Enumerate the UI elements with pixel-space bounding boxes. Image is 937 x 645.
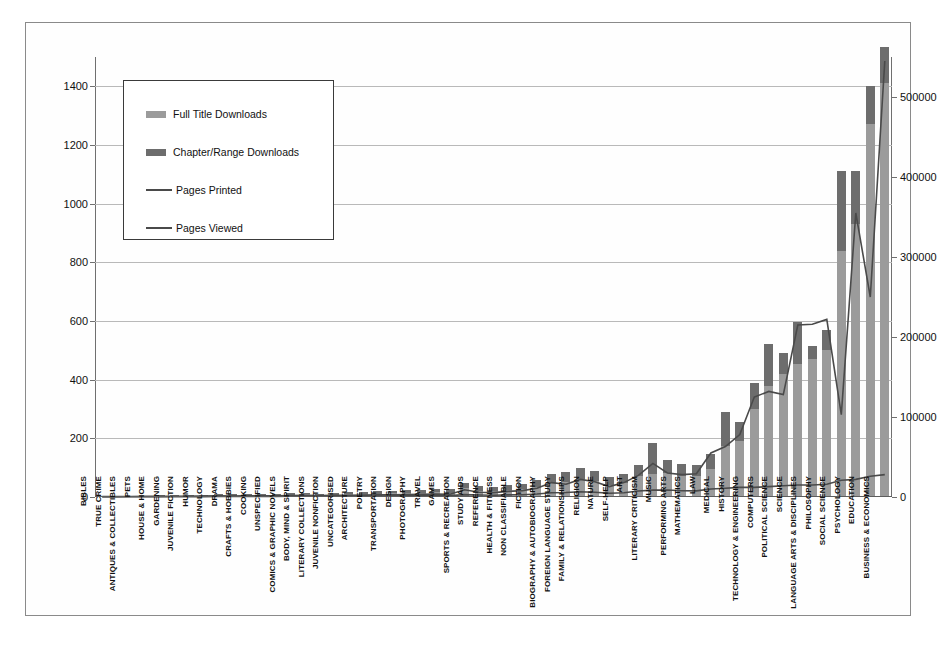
right-axis-tick-mark bbox=[892, 97, 897, 98]
legend-item: Chapter/Range Downloads bbox=[146, 133, 333, 171]
category-label: NON CLASSIFIABLE bbox=[499, 476, 508, 556]
category-label: COMICS & GRAPHIC NOVELS bbox=[268, 476, 277, 593]
category-label: HEALTH & FITNESS bbox=[485, 476, 494, 553]
category-label: FICTION bbox=[514, 476, 523, 509]
category-label: BODY, MIND & SPIRIT bbox=[282, 476, 291, 561]
right-axis-tick-mark bbox=[892, 177, 897, 178]
left-axis-tick-label: 600 bbox=[70, 315, 88, 327]
left-axis-tick-label: 1000 bbox=[64, 198, 88, 210]
legend-swatch-chapter-range-downloads bbox=[146, 149, 166, 156]
category-label: TRANSPORTATION bbox=[369, 476, 378, 551]
right-axis-tick-mark bbox=[892, 257, 897, 258]
category-label: BIBLES bbox=[79, 476, 88, 506]
left-axis-tick-label: 1200 bbox=[64, 139, 88, 151]
category-label: MUSIC bbox=[644, 476, 653, 502]
category-label: BIOGRAPHY & AUTOBIOGRAPHY bbox=[528, 476, 537, 608]
right-axis-tick-mark bbox=[892, 417, 897, 418]
left-axis-tick-label: 1400 bbox=[64, 80, 88, 92]
category-label: JUVENILE FICTION bbox=[166, 476, 175, 551]
right-axis-tick-mark bbox=[892, 497, 897, 498]
category-label: LITERARY CRITICISM bbox=[630, 476, 639, 560]
right-axis-tick-label: 100000 bbox=[900, 411, 937, 423]
category-label: RELIGION bbox=[572, 476, 581, 515]
right-axis-tick-label: 0 bbox=[900, 491, 906, 503]
category-label: POETRY bbox=[355, 476, 364, 509]
legend-label: Pages Printed bbox=[176, 184, 242, 196]
category-label: TECHNOLOGY bbox=[195, 476, 204, 533]
category-label: COMPUTERS bbox=[746, 476, 755, 528]
legend-label: Pages Viewed bbox=[176, 222, 243, 234]
category-label: COOKING bbox=[239, 476, 248, 515]
left-axis-tick-label: 200 bbox=[70, 432, 88, 444]
right-axis-tick-label: 500000 bbox=[900, 91, 937, 103]
category-label: NATURE bbox=[586, 476, 595, 509]
right-axis-tick-label: 200000 bbox=[900, 331, 937, 343]
category-label: ARCHITECTURE bbox=[340, 476, 349, 540]
category-label: GARDENING bbox=[152, 476, 161, 526]
legend-item: Full Title Downloads bbox=[146, 95, 333, 133]
legend-label: Chapter/Range Downloads bbox=[173, 146, 299, 158]
category-label: ART bbox=[615, 476, 624, 493]
legend-item: Pages Viewed bbox=[146, 209, 333, 247]
category-label: SPORTS & RECREATION bbox=[442, 476, 451, 573]
category-label: UNCATEGORISED bbox=[326, 476, 335, 547]
left-axis-tick-label: 800 bbox=[70, 256, 88, 268]
category-label: PHILOSOPHY bbox=[804, 476, 813, 529]
category-label: TRAVEL bbox=[413, 476, 422, 508]
category-label: SCIENCE bbox=[775, 476, 784, 512]
right-axis-tick-mark bbox=[892, 337, 897, 338]
legend-swatch-pages-viewed bbox=[146, 227, 172, 229]
category-label: PSYCHOLOGY bbox=[833, 476, 842, 533]
legend-item: Pages Printed bbox=[146, 171, 333, 209]
category-label: GAMES bbox=[427, 476, 436, 506]
category-label: SOCIAL SCIENCE bbox=[818, 476, 827, 545]
category-label: SELF-HELP bbox=[601, 476, 610, 521]
legend-swatch-full-title-downloads bbox=[146, 111, 166, 118]
category-label: ANTIQUES & COLLECTIBLES bbox=[108, 476, 117, 591]
right-axis-tick-label: 400000 bbox=[900, 171, 937, 183]
category-label: LAW bbox=[688, 476, 697, 494]
category-label: TECHNOLOGY & ENGINEERING bbox=[731, 476, 740, 601]
category-label: EDUCATION bbox=[847, 476, 856, 524]
legend-swatch-pages-printed bbox=[146, 189, 172, 191]
category-label: REFERENCE bbox=[471, 476, 480, 526]
category-label: DRAMA bbox=[210, 476, 219, 506]
chart-frame: 0200400600800100012001400 01000002000003… bbox=[25, 22, 911, 616]
category-label: POLITICAL SCIENCE bbox=[760, 476, 769, 558]
chart-legend: Full Title Downloads Chapter/Range Downl… bbox=[123, 80, 334, 240]
category-label: PERFORMING ARTS bbox=[659, 476, 668, 555]
right-axis-tick-label: 300000 bbox=[900, 251, 937, 263]
category-label: MEDICAL bbox=[702, 476, 711, 513]
category-label: STUDY AIDS bbox=[456, 476, 465, 525]
left-axis-tick-label: 400 bbox=[70, 374, 88, 386]
category-label: DESIGN bbox=[384, 476, 393, 507]
category-label: FAMILY & RELATIONSHIPS bbox=[557, 476, 566, 581]
category-label: CRAFTS & HOBBIES bbox=[224, 476, 233, 557]
category-label: PHOTOGRAPHY bbox=[398, 476, 407, 540]
category-label: LITERARY COLLECTIONS bbox=[297, 476, 306, 577]
category-label: HOUSE & HOME bbox=[137, 476, 146, 540]
category-label: PETS bbox=[123, 476, 132, 497]
category-label: MATHEMATICS bbox=[673, 476, 682, 535]
category-label: FOREIGN LANGUAGE STUDY bbox=[543, 476, 552, 592]
category-label: HISTORY bbox=[717, 476, 726, 512]
category-label: UNSPECIFIED bbox=[253, 476, 262, 531]
category-label: TRUE CRIME bbox=[94, 476, 103, 527]
category-label: LANGUAGE ARTS & DISCIPLINES bbox=[789, 476, 798, 609]
category-label: BUSINESS & ECONOMICS bbox=[862, 476, 871, 578]
category-label: JUVENILE NONFICTION bbox=[311, 476, 320, 569]
category-label: HUMOR bbox=[181, 476, 190, 507]
legend-label: Full Title Downloads bbox=[173, 108, 267, 120]
